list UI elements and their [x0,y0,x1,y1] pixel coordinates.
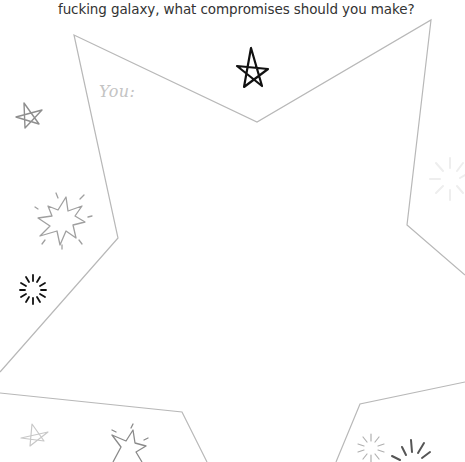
explosion-doodle-icon [35,193,92,249]
star-doodle-light-icon [16,103,42,128]
burst-doodle-partial-icon [392,440,430,460]
answer-label: You: [99,82,136,101]
explosion-doodle-small-icon [112,424,148,462]
star-doodle-dark-icon [237,48,268,87]
burst-doodle-dark-icon [20,275,46,304]
star-doodle-faint-icon [21,424,48,446]
star-outline-answer-area[interactable] [0,20,465,462]
worksheet-canvas [0,0,465,462]
burst-doodle-faint-icon [430,158,465,200]
burst-doodle-light-icon [358,434,384,462]
